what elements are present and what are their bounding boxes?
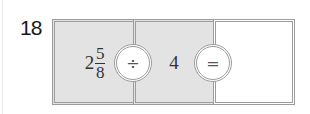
whole-part: 2 <box>85 52 95 74</box>
question-number: 18 <box>20 16 41 40</box>
margin-line <box>2 0 3 114</box>
denominator: 8 <box>96 65 105 81</box>
divisor-value: 4 <box>159 24 189 102</box>
numerator: 5 <box>96 46 105 62</box>
mixed-number: 2 5 8 <box>75 24 115 102</box>
fraction: 5 8 <box>95 46 105 81</box>
equals-sign-icon: = <box>194 44 232 82</box>
divide-operator-icon: ÷ <box>114 44 152 82</box>
